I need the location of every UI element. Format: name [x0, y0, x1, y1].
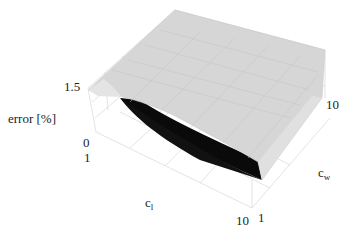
x-axis-main: c [145, 195, 151, 210]
y-tick-front: 1 [258, 211, 265, 224]
y-tick-back: 10 [326, 98, 339, 111]
x-tick-right: 10 [236, 214, 249, 227]
x-axis-sub: l [151, 202, 154, 212]
y-axis-label: cw [318, 166, 330, 179]
z-tick-bottom: 0 [83, 136, 90, 149]
y-axis-sub: w [324, 172, 331, 182]
z-tick-top: 1.5 [64, 80, 80, 93]
x-tick-left: 1 [84, 151, 91, 164]
z-axis-label: error [%] [8, 112, 56, 125]
y-axis-main: c [318, 165, 324, 180]
x-axis-label: cl [145, 196, 153, 209]
